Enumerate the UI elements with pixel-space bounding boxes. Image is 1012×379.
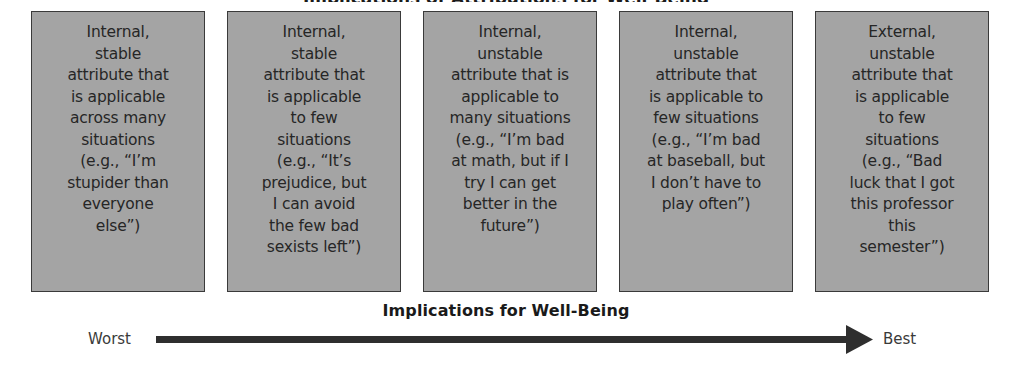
- attribution-box-1-text: Internal, stable attribute that is appli…: [38, 22, 198, 237]
- attribution-box-5-text: External, unstable attribute that is app…: [822, 22, 982, 259]
- attribution-box-5: External, unstable attribute that is app…: [815, 11, 989, 292]
- right-arrow-icon: [155, 323, 877, 355]
- attribution-box-3: Internal, unstable attribute that is app…: [423, 11, 597, 292]
- attribution-box-1: Internal, stable attribute that is appli…: [31, 11, 205, 292]
- axis-title: Implications for Well-Being: [0, 301, 1012, 320]
- axis-label-worst: Worst: [88, 330, 131, 348]
- attribution-box-3-text: Internal, unstable attribute that is app…: [430, 22, 590, 237]
- attribution-box-4: Internal, unstable attribute that is app…: [619, 11, 793, 292]
- axis-label-best: Best: [883, 330, 916, 348]
- attribution-box-4-text: Internal, unstable attribute that is app…: [626, 22, 786, 216]
- attribution-box-2: Internal, stable attribute that is appli…: [227, 11, 401, 292]
- attribution-box-2-text: Internal, stable attribute that is appli…: [234, 22, 394, 259]
- attribution-boxes: Internal, stable attribute that is appli…: [31, 11, 989, 292]
- figure-title-cropped: Implications of Attributions for Well-Be…: [0, 0, 1012, 2]
